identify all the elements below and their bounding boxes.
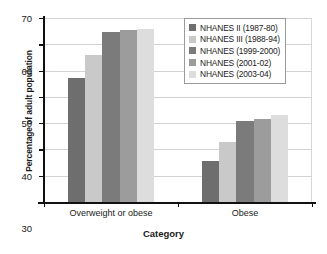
x-axis-title: Category — [0, 228, 327, 239]
x-tick-mark — [178, 202, 179, 207]
bar — [271, 115, 288, 202]
legend-label: NHANES III (1988-94) — [200, 34, 280, 44]
x-tick-label: Obese — [232, 208, 259, 218]
legend-swatch-icon — [189, 59, 196, 66]
legend-item: NHANES (2003-04) — [189, 68, 280, 80]
legend-item: NHANES II (1987-80) — [189, 22, 280, 34]
bar — [219, 142, 236, 202]
y-tick-label: 60 — [21, 65, 32, 76]
bar — [137, 29, 154, 202]
bar — [120, 30, 137, 202]
legend-label: NHANES (1999-2000) — [200, 46, 280, 56]
bar — [85, 55, 102, 202]
legend-item: NHANES III (1988-94) — [189, 34, 280, 46]
y-tick-label: 40 — [21, 170, 32, 181]
x-axis-line — [38, 202, 316, 204]
legend: NHANES II (1987-80)NHANES III (1988-94)N… — [184, 18, 286, 84]
legend-swatch-icon — [189, 47, 196, 54]
bar — [236, 121, 253, 202]
legend-label: NHANES (2001-02) — [200, 58, 271, 68]
legend-item: NHANES (2001-02) — [189, 57, 280, 69]
x-tick-label: Overweight or obese — [69, 208, 152, 218]
y-tick-label: 70 — [21, 13, 32, 24]
bar — [102, 32, 119, 202]
x-tick-mark — [44, 202, 45, 207]
legend-label: NHANES II (1987-80) — [200, 23, 278, 33]
y-tick-label: 50 — [21, 118, 32, 129]
bar — [202, 161, 219, 202]
bar — [68, 78, 85, 202]
bar-chart: Percentage of adult population 010203040… — [0, 0, 327, 254]
legend-swatch-icon — [189, 71, 196, 78]
y-axis-line — [43, 16, 45, 204]
legend-label: NHANES (2003-04) — [200, 69, 271, 79]
bar — [254, 119, 271, 202]
x-tick-mark — [312, 202, 313, 207]
legend-swatch-icon — [189, 24, 196, 31]
legend-item: NHANES (1999-2000) — [189, 45, 280, 57]
legend-swatch-icon — [189, 36, 196, 43]
